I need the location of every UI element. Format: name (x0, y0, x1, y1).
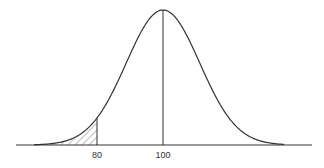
tick-label-100: 100 (155, 150, 170, 160)
bell-curve (34, 10, 284, 145)
tick-label-80: 80 (92, 150, 102, 160)
normal-curve-diagram: 80 100 (0, 0, 324, 168)
